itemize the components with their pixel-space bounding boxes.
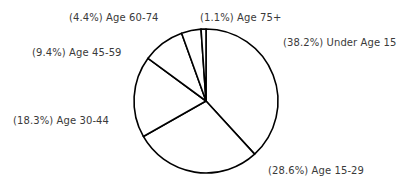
slice-label: (28.6%) Age 15-29 — [268, 165, 364, 176]
slice-label: (38.2%) Under Age 15 — [283, 37, 396, 48]
slice-label: (1.1%) Age 75+ — [200, 12, 281, 23]
slice-label: (4.4%) Age 60-74 — [69, 12, 159, 23]
slice-label: (9.4%) Age 45-59 — [32, 47, 122, 58]
slice-label: (18.3%) Age 30-44 — [13, 115, 109, 126]
pie-chart — [0, 0, 405, 188]
